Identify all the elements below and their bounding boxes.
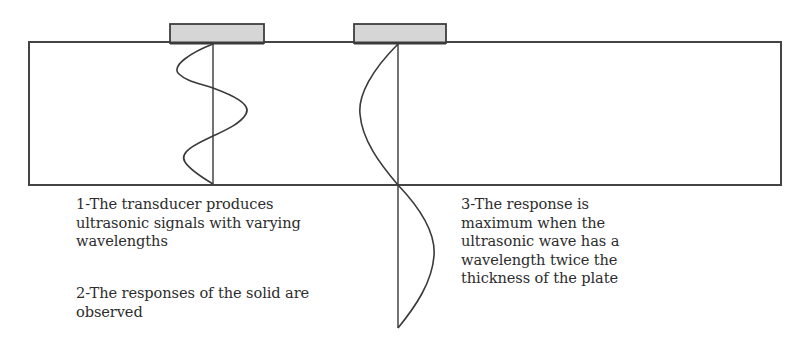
caption-step3-line1: 3-The response is — [461, 195, 619, 214]
caption-step3-line4: wavelength twice the — [461, 251, 619, 270]
caption-step3-line3: ultrasonic wave has a — [461, 232, 619, 251]
caption-step3-line2: maximum when the — [461, 214, 619, 233]
plate — [29, 42, 781, 185]
transducer-left — [170, 24, 264, 43]
caption-step3: 3-The response is maximum when the ultra… — [461, 195, 619, 288]
caption-step1-line3: wavelengths — [76, 232, 301, 251]
transducer-right — [354, 24, 446, 43]
caption-step1-line1: 1-The transducer produces — [76, 195, 301, 214]
caption-step1-line2: ultrasonic signals with varying — [76, 214, 301, 233]
wave-curve-left — [177, 44, 247, 184]
caption-step2-line2: observed — [76, 303, 309, 322]
varying-wavelength-wave — [177, 44, 247, 184]
caption-step2: 2-The responses of the solid are observe… — [76, 284, 309, 321]
caption-step1: 1-The transducer produces ultrasonic sig… — [76, 195, 301, 251]
caption-step3-line5: thickness of the plate — [461, 269, 619, 288]
caption-step2-line1: 2-The responses of the solid are — [76, 284, 309, 303]
